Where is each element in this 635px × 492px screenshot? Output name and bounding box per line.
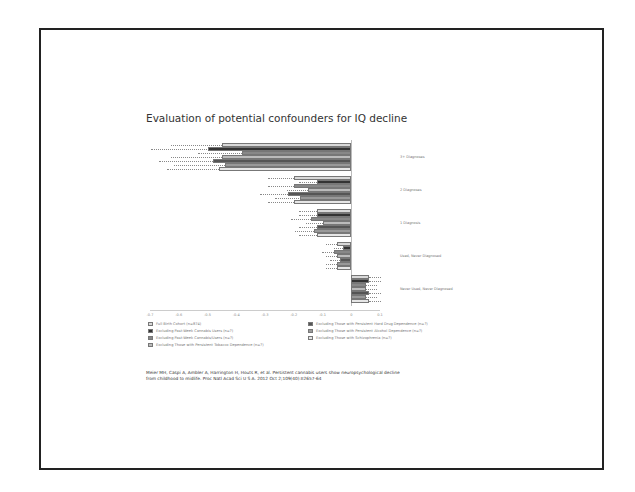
category-label: 2 Diagnoses [400,188,422,192]
bar [219,167,351,171]
x-tick-label: 0.1 [377,313,383,317]
error-bar [299,211,317,213]
error-bar [291,219,311,221]
x-axis: -0.7-0.6-0.5-0.4-0.3-0.2-0.100.1 [150,310,380,319]
chart-plot-area: 3+ Diagnoses2 Diagnoses1 DiagnosisUsed, … [150,140,380,306]
legend-swatch [148,336,153,340]
legend-label: Excluding Those with Persistent Hard Dru… [316,322,428,326]
x-tick-label: -0.7 [147,313,154,317]
error-bar [326,264,337,266]
error-bar [369,277,381,279]
bar [294,200,352,204]
legend-label: Excluding Past-Week Cannabis/Users (n=?) [156,336,233,340]
citation: Meier MH, Caspi A, Ambler A, Harrington … [146,370,406,382]
error-bar [369,281,381,283]
legend-item: Full Birth Cohort (n=874) [148,322,201,326]
legend-item: Excluding Those with Persistent Alcohol … [308,329,422,333]
x-tick-label: -0.4 [233,313,240,317]
error-bar [326,244,337,246]
error-bar [151,149,207,151]
error-bar [326,256,337,258]
legend-item: Excluding Past-Week Cannabis Users (n=?) [148,329,233,333]
category-label: 1 Diagnosis [400,221,420,225]
error-bar [260,194,288,196]
x-tick-label: -0.5 [204,313,211,317]
legend-swatch [308,322,313,326]
category-label: 3+ Diagnoses [400,155,424,159]
x-tick-label: -0.1 [319,313,326,317]
legend-swatch [308,329,313,333]
error-bar [326,268,337,270]
error-bar [167,169,219,171]
bar [317,233,352,237]
error-bar [299,235,317,237]
legend-item: Excluding Past-Week Cannabis/Users (n=?) [148,336,233,340]
legend-label: Excluding Past-Week Cannabis Users (n=?) [156,329,233,333]
error-bar [366,285,377,287]
error-bar [369,293,381,295]
error-bar [268,186,294,188]
error-bar [268,178,294,180]
error-bar [369,301,381,303]
legend-swatch [308,336,313,340]
bar [337,266,351,270]
category-label: Never Used, Never Diagnosed [400,287,453,291]
legend-item: Excluding Those with Schizophrenia (n=?) [308,336,392,340]
legend-item: Excluding Those with Persistent Hard Dru… [308,322,428,326]
legend-label: Full Birth Cohort (n=874) [156,322,201,326]
x-tick-label: -0.3 [262,313,269,317]
legend-label: Excluding Those with Persistent Tobacco … [156,343,264,347]
category-label: Used, Never Diagnosed [400,254,441,258]
x-tick-label: -0.2 [290,313,297,317]
error-bar [322,252,334,254]
legend-label: Excluding Those with Schizophrenia (n=?) [316,336,392,340]
legend-swatch [148,322,153,326]
legend-swatch [148,343,153,347]
chart-title: Evaluation of potential confounders for … [146,112,407,124]
x-tick-label: 0 [350,313,352,317]
legend-swatch [148,329,153,333]
error-bar [159,161,213,163]
bar [351,299,368,303]
error-bar [174,165,224,167]
legend-item: Excluding Those with Persistent Tobacco … [148,343,264,347]
error-bar [268,202,294,204]
x-tick-label: -0.6 [175,313,182,317]
error-bar [295,231,314,233]
legend-label: Excluding Those with Persistent Alcohol … [316,329,422,333]
